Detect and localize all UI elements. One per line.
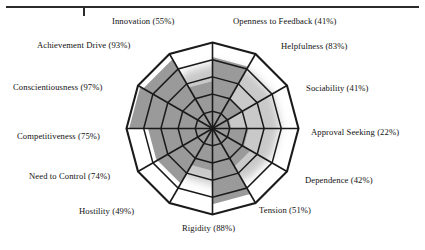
axis-label-need-to-control: Need to Control (74%) — [29, 172, 110, 181]
axis-label-competitiveness: Competitiveness (75%) — [17, 132, 100, 141]
axis-label-dependence: Dependence (42%) — [305, 176, 373, 185]
axis-label-innovation: Innovation (55%) — [112, 17, 174, 26]
axis-label-helpfulness: Helpfulness (83%) — [281, 42, 347, 51]
axis-label-rigidity: Rigidity (88%) — [182, 224, 235, 233]
radar-axis-spokes — [127, 43, 299, 215]
radar-chart: Innovation (55%)Openness to Feedback (41… — [0, 0, 425, 250]
axis-label-conscientiousness: Conscientiousness (97%) — [13, 83, 102, 92]
radar-chart-page: Innovation (55%)Openness to Feedback (41… — [0, 0, 425, 250]
axis-label-sociability: Sociability (41%) — [306, 84, 369, 93]
axis-label-tension: Tension (51%) — [259, 206, 311, 215]
axis-label-approval-seeking: Approval Seeking (22%) — [311, 128, 399, 137]
axis-label-openness-to-feedback: Openness to Feedback (41%) — [233, 17, 337, 26]
axis-label-achievement-drive: Achievement Drive (93%) — [37, 41, 130, 50]
axis-label-hostility: Hostility (49%) — [79, 207, 134, 216]
radar-chart-svg — [0, 0, 425, 250]
